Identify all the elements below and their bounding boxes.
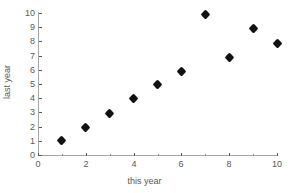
data-point — [272, 39, 282, 49]
data-point — [153, 80, 163, 90]
x-tick-label: 10 — [266, 160, 288, 169]
data-point — [129, 94, 139, 104]
data-point — [248, 24, 258, 34]
x-tick-label: 6 — [170, 160, 192, 169]
data-point — [224, 52, 234, 62]
x-tick-mark — [277, 153, 278, 156]
plot-area — [38, 13, 277, 155]
x-tick-label: 4 — [123, 160, 145, 169]
data-point — [200, 9, 210, 19]
y-tick-label: 4 — [13, 94, 35, 103]
y-tick-label: 7 — [13, 52, 35, 61]
y-tick-label: 2 — [13, 123, 35, 132]
y-tick-label: 1 — [13, 137, 35, 146]
y-tick-label: 3 — [13, 108, 35, 117]
x-axis-title: this year — [0, 176, 289, 186]
y-tick-label: 10 — [13, 9, 35, 18]
y-tick-mark — [39, 155, 42, 156]
data-point — [57, 136, 67, 146]
x-tick-label: 8 — [218, 160, 240, 169]
data-point — [176, 66, 186, 76]
x-tick-label: 0 — [27, 160, 49, 169]
scatter-chart: 012345678910 0246810 last year this year — [0, 0, 289, 193]
x-tick-label: 2 — [75, 160, 97, 169]
y-tick-label: 6 — [13, 66, 35, 75]
y-tick-label: 0 — [13, 151, 35, 160]
data-point — [105, 108, 115, 118]
y-axis-title: last year — [2, 56, 12, 108]
y-tick-label: 5 — [13, 80, 35, 89]
y-tick-label: 9 — [13, 23, 35, 32]
y-tick-label: 8 — [13, 37, 35, 46]
data-point — [81, 122, 91, 132]
